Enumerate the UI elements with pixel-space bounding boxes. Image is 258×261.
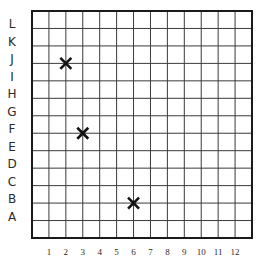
y-axis-label-f: F	[4, 123, 20, 135]
y-axis-label-g: G	[4, 106, 20, 118]
grid	[0, 0, 258, 261]
coordinate-grid-figure: LKJIHGFEDCBA 123456789101112	[0, 0, 258, 261]
y-axis-label-j: J	[4, 53, 20, 65]
y-axis-label-k: K	[4, 36, 20, 48]
y-axis-label-c: C	[4, 176, 20, 188]
y-axis-label-l: L	[4, 18, 20, 30]
y-axis-label-h: H	[4, 88, 20, 100]
y-axis-label-i: I	[4, 71, 20, 83]
y-axis-label-b: B	[4, 193, 20, 205]
y-axis-label-a: A	[4, 211, 20, 223]
x-axis-label-12: 12	[225, 247, 245, 257]
y-axis-label-d: D	[4, 158, 20, 170]
grid-border	[32, 11, 252, 238]
y-axis-label-e: E	[4, 141, 20, 153]
